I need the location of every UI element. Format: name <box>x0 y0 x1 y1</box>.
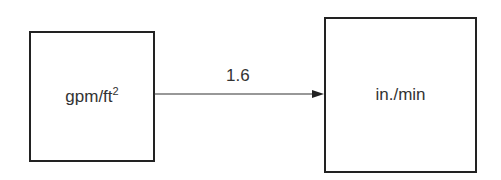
source-unit-box: gpm/ft2 <box>29 31 155 162</box>
conversion-factor-label: 1.6 <box>226 66 250 86</box>
source-unit-label: gpm/ft2 <box>65 87 118 107</box>
conversion-arrow-icon <box>154 88 326 100</box>
target-unit-box: in./min <box>324 17 477 173</box>
target-unit-label: in./min <box>375 85 425 105</box>
source-unit-exponent: 2 <box>113 85 119 97</box>
source-unit-text: gpm/ft <box>65 87 112 106</box>
